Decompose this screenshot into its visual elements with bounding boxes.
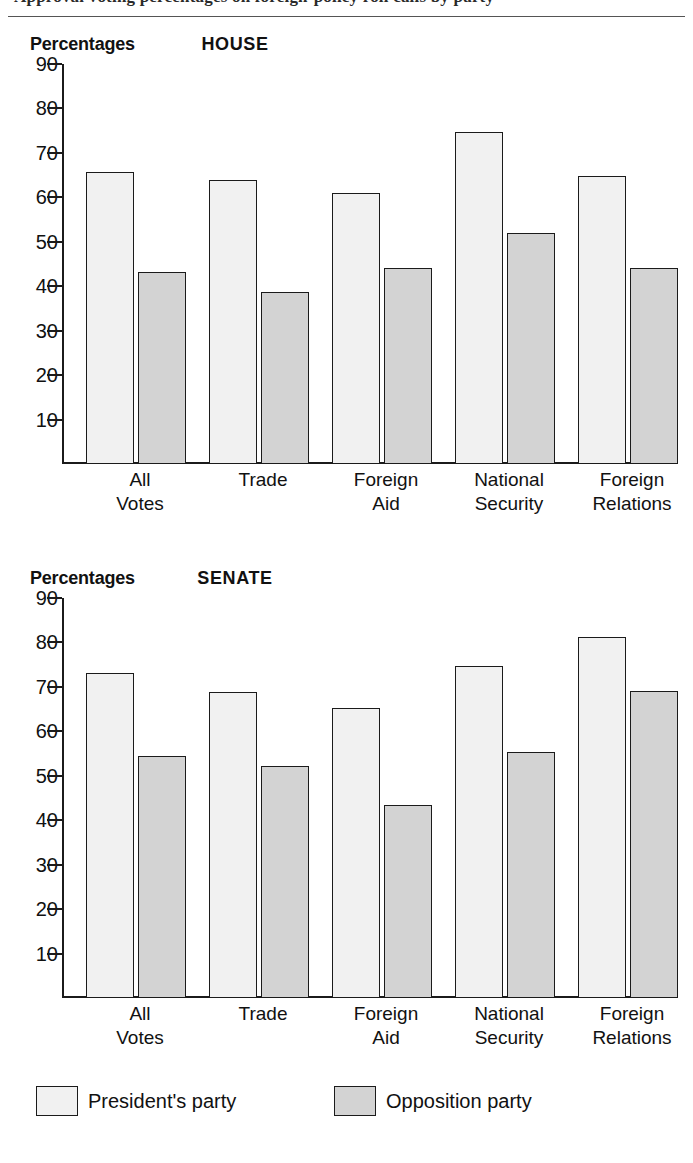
x-tick-label: Trade [197, 468, 329, 492]
y-axis-tick [47, 196, 62, 198]
y-axis-tick [47, 419, 62, 421]
bar-presidents-party [209, 180, 257, 464]
bar-presidents-party [209, 692, 257, 998]
y-axis-tick [47, 241, 62, 243]
y-axis-tick [47, 953, 62, 955]
bar-opposition-party [138, 756, 186, 998]
plot-area-house: 908070605040302010 AllVotesTradeForeignA… [0, 64, 693, 494]
x-tick-label: ForeignRelations [566, 468, 693, 516]
y-axis-tick [47, 908, 62, 910]
chart-panel-senate: Percentages SENATE 908070605040302010 Al… [0, 568, 693, 1068]
bar-group [332, 598, 440, 998]
bar-groups-house [64, 64, 664, 464]
legend-item-presidents-party: President's party [36, 1086, 236, 1116]
x-tick-label: ForeignAid [320, 1002, 452, 1050]
panel-title-house: HOUSE [0, 34, 470, 55]
bar-group [86, 64, 194, 464]
bar-opposition-party [261, 766, 309, 998]
bar-group [455, 598, 563, 998]
bar-opposition-party [630, 268, 678, 464]
running-head-text: Approval voting percentages on foreign-p… [14, 0, 679, 7]
bar-group [209, 64, 317, 464]
x-tick-label: ForeignRelations [566, 1002, 693, 1050]
y-axis-tick [47, 374, 62, 376]
chart-panel-house: Percentages HOUSE 908070605040302010 All… [0, 34, 693, 574]
x-tick-labels-house: AllVotesTradeForeignAidNationalSecurityF… [64, 468, 664, 520]
plot-area-senate: 908070605040302010 AllVotesTradeForeignA… [0, 598, 693, 1028]
y-axis-tick [47, 63, 62, 65]
y-axis-tick [47, 285, 62, 287]
x-tick-label: Trade [197, 1002, 329, 1026]
y-axis-tick [47, 152, 62, 154]
y-axis-tick [47, 775, 62, 777]
bar-presidents-party [86, 673, 134, 998]
y-tick-labels-house: 908070605040302010 [0, 64, 58, 464]
legend-label-opposition-party: Opposition party [386, 1090, 532, 1113]
bar-group [209, 598, 317, 998]
y-axis-tick [47, 597, 62, 599]
y-axis-tick [47, 686, 62, 688]
bar-group [332, 64, 440, 464]
y-axis-tick [47, 641, 62, 643]
bar-groups-senate [64, 598, 664, 998]
legend-item-opposition-party: Opposition party [334, 1086, 532, 1116]
legend-swatch-presidents-party [36, 1086, 78, 1116]
bar-presidents-party [455, 132, 503, 464]
bar-group [578, 64, 686, 464]
x-tick-labels-senate: AllVotesTradeForeignAidNationalSecurityF… [64, 1002, 664, 1054]
bar-opposition-party [138, 272, 186, 464]
header-divider [8, 16, 685, 17]
x-tick-label: ForeignAid [320, 468, 452, 516]
bar-presidents-party [332, 193, 380, 464]
bar-group [455, 64, 563, 464]
bar-opposition-party [261, 292, 309, 464]
x-tick-label: AllVotes [74, 468, 206, 516]
bar-group [578, 598, 686, 998]
bar-presidents-party [86, 172, 134, 464]
y-axis-tick [47, 819, 62, 821]
bar-presidents-party [578, 637, 626, 998]
panel-title-senate: SENATE [0, 568, 470, 589]
bar-opposition-party [507, 752, 555, 998]
bar-presidents-party [578, 176, 626, 464]
x-tick-label: NationalSecurity [443, 468, 575, 516]
legend-label-presidents-party: President's party [88, 1090, 236, 1113]
y-axis-tick [47, 864, 62, 866]
bar-group [86, 598, 194, 998]
x-tick-label: AllVotes [74, 1002, 206, 1050]
panel-header-senate: Percentages SENATE [0, 568, 693, 596]
panel-header-house: Percentages HOUSE [0, 34, 693, 62]
bar-presidents-party [455, 666, 503, 998]
bar-presidents-party [332, 708, 380, 998]
y-tick-labels-senate: 908070605040302010 [0, 598, 58, 998]
chart-legend: President's party Opposition party [0, 1086, 693, 1130]
x-tick-label: NationalSecurity [443, 1002, 575, 1050]
bar-opposition-party [384, 805, 432, 998]
y-axis-tick [47, 107, 62, 109]
bar-opposition-party [507, 233, 555, 464]
legend-swatch-opposition-party [334, 1086, 376, 1116]
y-axis-tick [47, 330, 62, 332]
y-axis-tick [47, 730, 62, 732]
bar-opposition-party [630, 691, 678, 998]
bar-opposition-party [384, 268, 432, 464]
